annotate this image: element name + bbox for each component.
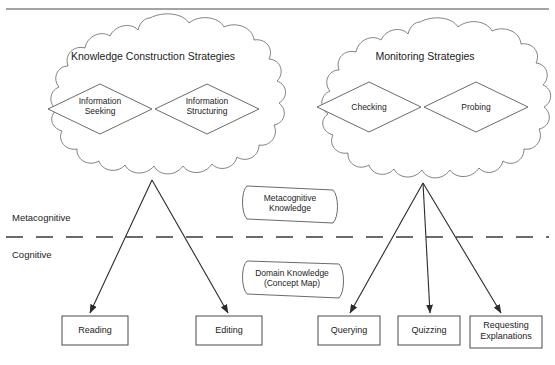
arrow-to-querying xyxy=(350,183,423,313)
arrow-to-reading xyxy=(90,180,152,313)
box-querying xyxy=(318,316,380,345)
store-domain-knowledge xyxy=(243,261,344,298)
diagram-graphics xyxy=(0,0,555,365)
box-requesting-explanations xyxy=(470,316,542,348)
box-quizzing xyxy=(398,316,460,345)
arrow-to-requesting-explanations xyxy=(423,183,501,313)
store-metacognitive-knowledge xyxy=(243,186,338,223)
box-reading xyxy=(62,316,128,345)
box-editing xyxy=(196,316,262,345)
arrow-to-quizzing xyxy=(423,183,430,313)
diagram-canvas: Knowledge Construction Strategies Monito… xyxy=(0,0,555,365)
arrow-to-editing xyxy=(152,180,228,313)
